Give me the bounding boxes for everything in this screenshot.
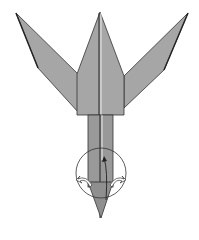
origami-diagram — [0, 0, 199, 240]
bottom-point — [88, 182, 113, 218]
right-wing-flap — [124, 13, 188, 108]
center-point-flap — [77, 12, 124, 115]
left-wing-flap — [16, 13, 78, 112]
